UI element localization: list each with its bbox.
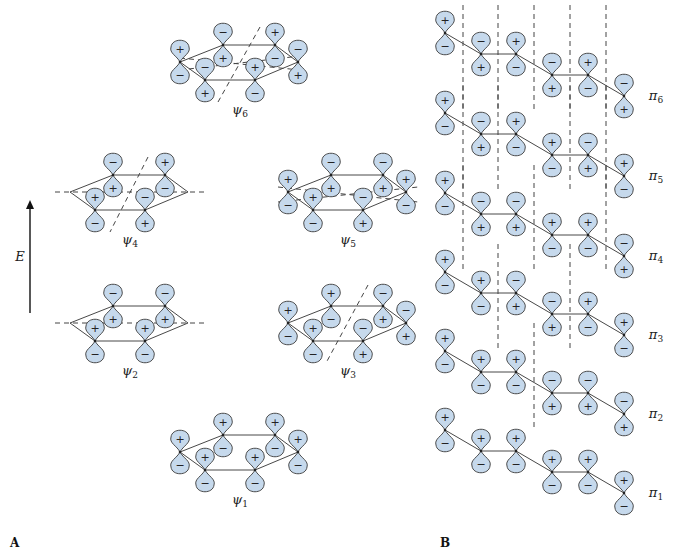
atom-dot <box>623 255 626 258</box>
phase-sign: − <box>308 217 317 230</box>
phase-sign: − <box>440 358 449 371</box>
atom-dot <box>587 74 590 77</box>
panel-label-a: A <box>9 536 20 550</box>
phase-sign: + <box>378 182 387 195</box>
atom-dot <box>164 305 167 308</box>
phase-sign: + <box>401 330 410 343</box>
phase-sign: − <box>140 348 149 361</box>
phase-sign: + <box>476 353 485 366</box>
atom-dot <box>204 469 207 472</box>
phase-sign: + <box>108 313 117 326</box>
atom-dot <box>551 471 554 474</box>
phase-sign: − <box>511 458 520 471</box>
phase-sign: + <box>583 56 592 69</box>
atom-dot <box>480 213 483 216</box>
phase-sign: + <box>270 26 279 39</box>
phase-sign: + <box>440 411 449 424</box>
orbital-ψ6: +−−+−++−+−−+ψ6 <box>171 23 308 119</box>
atom-dot <box>405 322 408 325</box>
atom-dot <box>480 53 483 56</box>
phase-sign: − <box>326 156 335 169</box>
p-orbital: −+ <box>289 40 308 84</box>
atom-dot <box>330 305 333 308</box>
p-orbital: +− <box>279 170 298 214</box>
phase-sign: + <box>619 474 628 487</box>
phase-sign: − <box>218 442 227 455</box>
phase-sign: + <box>476 221 485 234</box>
atom-dot <box>297 61 300 64</box>
phase-sign: + <box>293 433 302 446</box>
phase-sign: − <box>90 348 99 361</box>
phase-sign: − <box>378 156 387 169</box>
phase-sign: − <box>476 379 485 392</box>
atom-dot <box>94 340 97 343</box>
phase-sign: + <box>250 61 259 74</box>
phase-sign: − <box>511 195 520 208</box>
atom-dot <box>254 469 257 472</box>
phase-sign: − <box>175 459 184 472</box>
atom-dot <box>515 213 518 216</box>
phase-sign: + <box>283 304 292 317</box>
atom-dot <box>515 292 518 295</box>
atom-dot <box>444 112 447 115</box>
phase-sign: − <box>326 313 335 326</box>
phase-sign: + <box>218 416 227 429</box>
phase-sign: + <box>511 353 520 366</box>
p-orbital: +− <box>615 154 634 198</box>
phase-sign: − <box>619 183 628 196</box>
phase-sign: − <box>200 61 209 74</box>
phase-sign: − <box>440 200 449 213</box>
p-orbital: +− <box>436 329 455 373</box>
orbital-π2: +−+−+−−+−+−+π2 <box>436 323 663 436</box>
phase-sign: − <box>476 300 485 313</box>
atom-dot <box>515 450 518 453</box>
phase-sign: + <box>401 173 410 186</box>
phase-sign: − <box>476 35 485 48</box>
p-orbital: +− <box>279 301 298 345</box>
phase-sign: − <box>476 195 485 208</box>
orbital-ψ3: +−+−+−−+−+−+ψ3 <box>279 284 416 380</box>
atom-dot <box>405 191 408 194</box>
orbital-label-ψ5: ψ5 <box>340 232 356 249</box>
phase-sign: + <box>308 322 317 335</box>
phase-sign: − <box>160 287 169 300</box>
orbital-ψ2: −++−+−−+ψ2 <box>55 284 205 380</box>
atom-dot <box>515 53 518 56</box>
p-orbital: +− <box>289 430 308 474</box>
phase-sign: − <box>140 191 149 204</box>
p-orbital: −+ <box>615 392 634 436</box>
atom-dot <box>222 44 225 47</box>
orbital-label-π2: π2 <box>648 406 663 423</box>
p-orbital: +− <box>171 430 190 474</box>
p-orbital: −+ <box>615 234 634 278</box>
atom-dot <box>587 154 590 157</box>
phase-sign: − <box>547 479 556 492</box>
phase-sign: + <box>476 274 485 287</box>
phase-sign: − <box>283 330 292 343</box>
atom-dot <box>515 133 518 136</box>
orbital-label-π3: π3 <box>648 327 664 344</box>
atom-dot <box>254 79 257 82</box>
orbital-label-ψ2: ψ2 <box>122 363 138 380</box>
atom-dot <box>480 450 483 453</box>
atom-dot <box>312 340 315 343</box>
atom-dot <box>204 79 207 82</box>
atom-dot <box>623 413 626 416</box>
atom-dot <box>312 209 315 212</box>
phase-sign: + <box>583 453 592 466</box>
phase-sign: − <box>511 379 520 392</box>
orbital-ψ1: +−+−+−+−+−+−ψ1 <box>171 413 308 509</box>
atom-dot <box>287 322 290 325</box>
atom-dot <box>362 209 365 212</box>
phase-sign: + <box>200 87 209 100</box>
phase-sign: − <box>90 217 99 230</box>
phase-sign: − <box>108 156 117 169</box>
orbital-label-ψ1: ψ1 <box>232 492 248 509</box>
p-orbital: −+ <box>397 301 416 345</box>
phase-sign: − <box>440 279 449 292</box>
phase-sign: + <box>308 191 317 204</box>
atom-dot <box>274 434 277 437</box>
atom-dot <box>444 429 447 432</box>
atom-dot <box>623 95 626 98</box>
orbital-label-π1: π1 <box>648 485 663 502</box>
